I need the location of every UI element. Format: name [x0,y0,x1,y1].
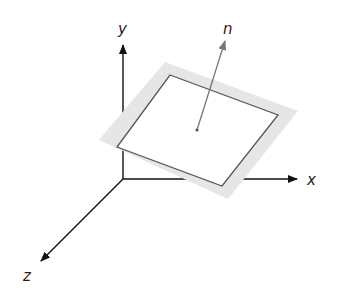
diagram-svg: y n x z [0,0,341,298]
y-axis-label: y [117,20,128,38]
normal-label: n [223,20,233,38]
z-axis-label: z [22,267,32,285]
diagram-canvas: y n x z [0,0,341,298]
plane-center-point [195,128,198,131]
x-axis-label: x [306,171,316,189]
z-axis [41,179,123,261]
